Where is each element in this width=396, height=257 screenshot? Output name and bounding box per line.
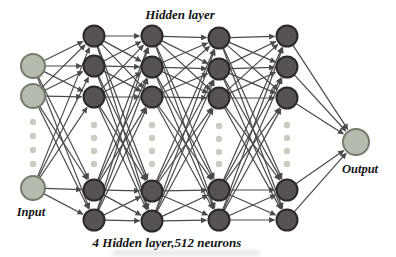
ellipsis-dot — [91, 135, 97, 141]
input-node — [21, 84, 45, 108]
hidden-node — [209, 180, 230, 201]
hidden-node — [142, 211, 163, 232]
ellipsis-dot — [30, 147, 36, 153]
ellipsis-dot — [91, 122, 97, 128]
output-label: Output — [342, 162, 378, 177]
hidden-node — [142, 181, 163, 202]
ellipsis-dot — [284, 122, 290, 128]
edge — [294, 153, 346, 212]
ellipsis-dot — [30, 161, 36, 167]
ellipsis-dot — [30, 133, 36, 139]
ellipsis-dot — [284, 148, 290, 154]
edge — [229, 194, 276, 215]
ellipsis-dot — [216, 136, 222, 142]
ellipsis-dot — [149, 148, 155, 154]
ellipsis-dot — [216, 123, 222, 129]
edge — [296, 104, 344, 134]
ellipsis-dot — [284, 135, 290, 141]
edge — [105, 190, 140, 191]
edge — [163, 220, 207, 221]
hidden-node — [277, 210, 298, 231]
edge — [45, 96, 82, 97]
hidden-node — [277, 180, 298, 201]
hidden-node — [84, 87, 105, 108]
edge — [229, 195, 276, 216]
edge — [163, 36, 207, 37]
edge — [45, 188, 82, 189]
ellipsis-dot — [149, 161, 155, 167]
hidden-node — [84, 180, 105, 201]
edge — [296, 151, 344, 184]
hidden-node — [84, 210, 105, 231]
input-label: Input — [17, 205, 46, 220]
hidden-node — [277, 88, 298, 109]
hidden-node — [209, 88, 230, 109]
network-canvas — [0, 0, 396, 257]
output-node — [343, 129, 369, 155]
ellipsis-dot — [216, 161, 222, 167]
hidden-node — [142, 87, 163, 108]
edge — [38, 107, 88, 209]
ellipsis-dot — [91, 148, 97, 154]
edge — [163, 97, 207, 98]
edge — [156, 80, 214, 211]
hidden-node — [209, 210, 230, 231]
ellipsis-dot — [91, 161, 97, 167]
scan-artifact — [112, 251, 260, 255]
hidden-node — [84, 56, 105, 77]
edge — [230, 36, 275, 37]
edge — [156, 50, 215, 211]
hidden-node — [142, 26, 163, 47]
ellipsis-dot — [216, 149, 222, 155]
edge — [105, 220, 140, 221]
ellipsis-dot — [30, 119, 36, 125]
caption-label: 4 Hidden layer,512 neurons — [93, 235, 242, 251]
neural-network-diagram: Hidden layer Input Output 4 Hidden layer… — [0, 0, 396, 257]
edge — [44, 42, 83, 61]
ellipsis-dot — [149, 122, 155, 128]
hidden-node — [84, 26, 105, 47]
edge — [225, 106, 279, 179]
input-node — [21, 176, 45, 200]
edge — [44, 194, 83, 215]
edge — [294, 75, 346, 131]
ellipsis-dot — [149, 135, 155, 141]
hidden-node — [209, 28, 230, 49]
input-node — [21, 54, 45, 78]
hidden-node — [209, 59, 230, 80]
ellipsis-dot — [284, 161, 290, 167]
hidden-layer-label: Hidden layer — [145, 7, 215, 23]
hidden-node — [277, 57, 298, 78]
hidden-node — [277, 26, 298, 47]
hidden-node — [142, 57, 163, 78]
edge — [293, 45, 348, 130]
